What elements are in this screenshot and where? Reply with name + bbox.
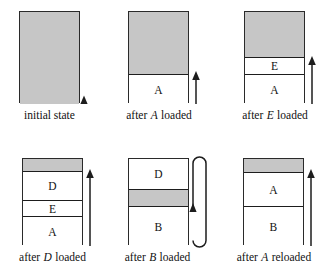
up-arrow-after-a-reloaded bbox=[304, 168, 318, 247]
memory-loading-diagram: initial stateAafter A loadedEAafter E lo… bbox=[0, 0, 332, 280]
memory-segment-free bbox=[244, 159, 303, 172]
panel-after-a-reloaded: ABafter A reloaded bbox=[0, 0, 332, 280]
segment-label: A bbox=[269, 184, 278, 196]
segment-label: B bbox=[270, 221, 278, 233]
caption-suffix: reloaded bbox=[269, 251, 311, 263]
memory-box-after-a-reloaded: AB bbox=[243, 158, 304, 245]
caption-prefix: after bbox=[237, 251, 261, 263]
caption-block-letter: A bbox=[261, 251, 269, 263]
caption-after-a-reloaded: after A reloaded bbox=[218, 251, 330, 263]
memory-segment-a: A bbox=[244, 172, 303, 206]
memory-segment-b: B bbox=[244, 206, 303, 246]
